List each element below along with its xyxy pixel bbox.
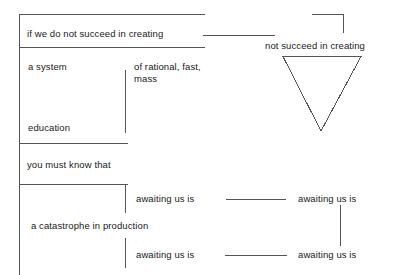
inverted-triangle-shape <box>283 57 361 132</box>
label-awaiting-us-is-right-bottom: awaiting us is <box>298 249 356 261</box>
label-subject-2: a catastrophe in production <box>31 220 148 232</box>
label-awaiting-us-is-left-bottom: awaiting us is <box>136 249 194 261</box>
label-awaiting-us-is-right-top: awaiting us is <box>298 193 356 205</box>
label-clause-right: not succeed in creating <box>265 40 365 52</box>
label-modifier-1: of rational, fast, mass <box>134 61 201 85</box>
label-awaiting-us-is-left-top: awaiting us is <box>136 193 194 205</box>
label-object-1: education <box>28 122 70 134</box>
diagram-canvas: if we do not succeed in creating a syste… <box>0 0 407 275</box>
label-clause-2: you must know that <box>27 159 111 171</box>
label-subject-1: a system <box>28 61 67 73</box>
label-clause-1: if we do not succeed in creating <box>27 28 163 40</box>
